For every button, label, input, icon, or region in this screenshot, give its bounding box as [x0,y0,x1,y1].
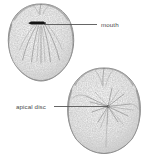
upper-specimen [4,0,80,86]
mouth-feature [29,22,47,25]
label-mouth-text: mouth [101,21,119,28]
label-apical-disc-text: apical disc [16,103,46,110]
echinoid-illustration-figure: mouth apical disc [0,0,149,162]
lower-specimen [62,64,144,158]
illustration-canvas: mouth apical disc [0,0,149,162]
upper-specimen-stipple [4,0,80,86]
